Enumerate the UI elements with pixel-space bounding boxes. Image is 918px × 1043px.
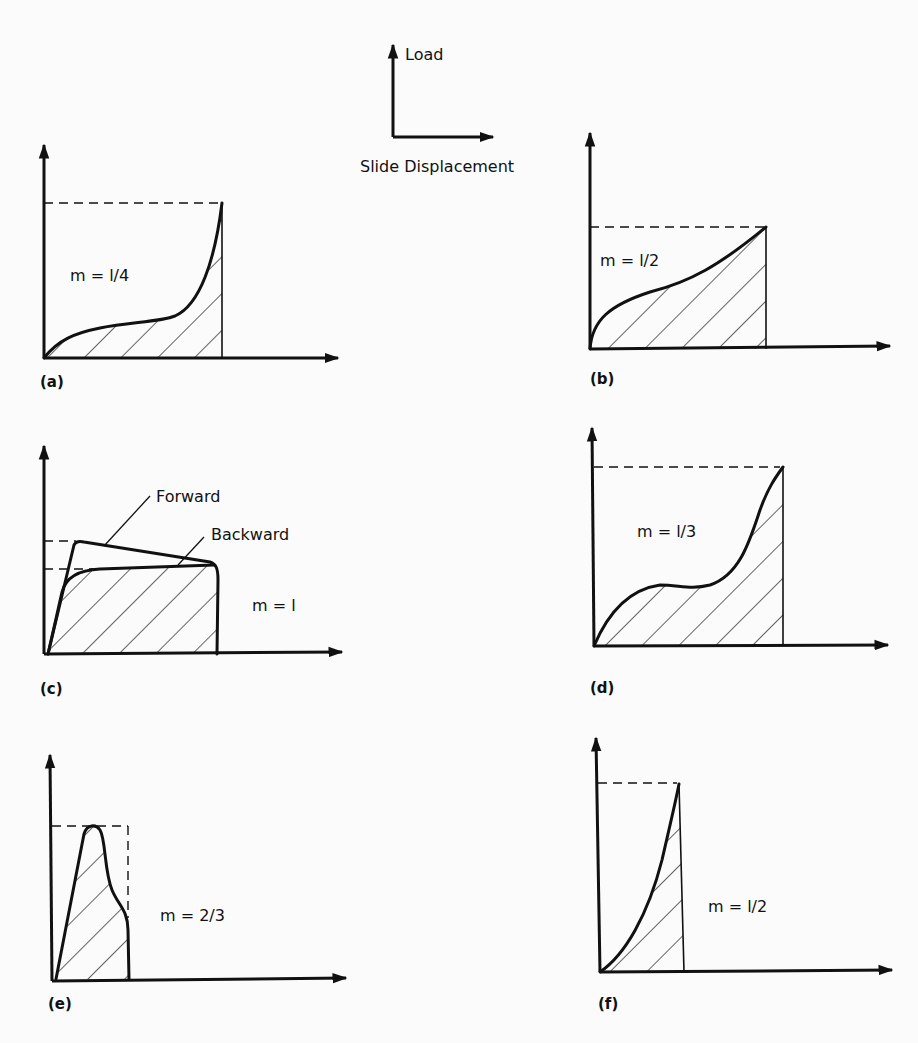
panel-a-m-label: m = l/4 xyxy=(70,266,129,285)
panel-c-m-label: m = l xyxy=(252,596,296,615)
panel-b-m-label: m = l/2 xyxy=(600,251,659,270)
panel-e: m = 2/3 (e) xyxy=(48,755,346,1013)
panel-c-label: (c) xyxy=(40,680,63,698)
panel-b: m = l/2 (b) xyxy=(590,133,890,388)
panel-b-label: (b) xyxy=(590,370,614,388)
panel-c-backward-label: Backward xyxy=(211,525,289,544)
panel-d-y-axis xyxy=(592,428,594,646)
panel-c-x-axis xyxy=(44,652,342,654)
clipped-caption-fragment xyxy=(620,1036,918,1043)
figure: Load Slide Displacement m = l/4 (a) m = … xyxy=(0,0,918,1043)
panel-e-label: (e) xyxy=(48,995,72,1013)
panel-c: Forward Backward m = l (c) xyxy=(40,446,342,698)
legend-axes: Load Slide Displacement xyxy=(360,45,514,176)
panel-d: m = l/3 (d) xyxy=(590,428,888,697)
legend-displacement-label: Slide Displacement xyxy=(360,157,514,176)
panel-f-y-axis xyxy=(596,738,600,972)
panel-f-label: (f) xyxy=(598,995,618,1013)
panel-d-label: (d) xyxy=(590,679,614,697)
panel-f-m-label: m = l/2 xyxy=(708,897,767,916)
panel-a: m = l/4 (a) xyxy=(40,145,338,391)
panel-d-x-axis xyxy=(594,645,888,646)
panel-c-forward-leader xyxy=(104,496,150,546)
panel-e-y-axis xyxy=(50,755,52,981)
panel-d-m-label: m = l/3 xyxy=(637,522,696,541)
panel-e-m-label: m = 2/3 xyxy=(160,906,225,925)
panel-f: m = l/2 (f) xyxy=(596,738,892,1013)
panel-c-forward-label: Forward xyxy=(156,487,220,506)
legend-load-label: Load xyxy=(405,45,443,64)
panel-a-label: (a) xyxy=(40,373,64,391)
panel-f-x-axis xyxy=(600,970,892,972)
